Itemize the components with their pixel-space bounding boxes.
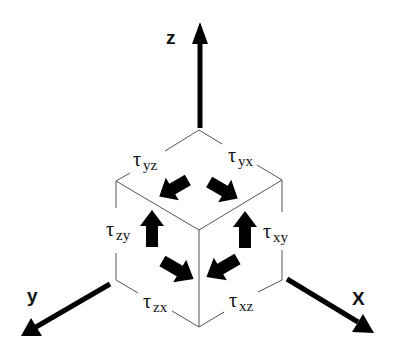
shear-arrow-xz-icon bbox=[200, 248, 244, 289]
z-axis-label: z bbox=[166, 27, 176, 48]
z-axis-arrowhead-icon bbox=[192, 22, 208, 44]
svg-text:yx: yx bbox=[238, 153, 254, 169]
shear-arrow-yx-icon bbox=[203, 171, 245, 210]
svg-text:τ: τ bbox=[143, 290, 151, 312]
svg-text:xy: xy bbox=[273, 229, 289, 245]
y-axis-label: y bbox=[27, 285, 38, 306]
label-tau-xy: τ xy bbox=[263, 220, 289, 245]
label-tau-zy: τ zy bbox=[106, 218, 131, 243]
svg-text:τ: τ bbox=[133, 148, 141, 170]
svg-text:zx: zx bbox=[153, 299, 168, 315]
shear-arrow-zy-icon bbox=[140, 210, 164, 247]
label-tau-zx: τ zx bbox=[143, 290, 168, 315]
z-axis bbox=[192, 22, 208, 128]
svg-text:zy: zy bbox=[116, 227, 131, 243]
svg-text:τ: τ bbox=[106, 218, 114, 240]
label-tau-xz: τ xz bbox=[229, 289, 254, 314]
x-axis-arrowhead-icon bbox=[352, 314, 374, 333]
stress-cube-diagram: z y X bbox=[0, 0, 393, 357]
svg-text:τ: τ bbox=[229, 289, 237, 311]
shear-arrow-yz-icon bbox=[153, 169, 195, 208]
svg-text:τ: τ bbox=[228, 144, 236, 166]
label-tau-yx: τ yx bbox=[228, 144, 254, 169]
svg-text:yz: yz bbox=[143, 157, 158, 173]
svg-text:xz: xz bbox=[239, 298, 254, 314]
shear-arrow-zx-icon bbox=[156, 250, 200, 291]
shear-arrow-xy-icon bbox=[233, 211, 257, 248]
label-tau-yz: τ yz bbox=[133, 148, 158, 173]
svg-text:τ: τ bbox=[263, 220, 271, 242]
x-axis-label: X bbox=[352, 288, 365, 309]
